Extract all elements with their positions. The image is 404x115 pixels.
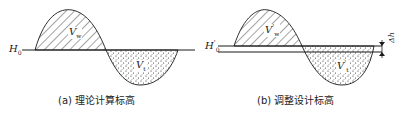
caption-b: (b) 调整设计标高	[257, 92, 334, 107]
datum-label-h0-prime: H'0	[205, 40, 220, 53]
panel-adjusted-elevation: H'0 V'w V't Δh (b) 调整设计标高	[202, 0, 404, 115]
delta-h-label: Δh	[388, 32, 396, 43]
datum-label-h0: H0	[9, 44, 22, 56]
arrow-down-icon	[379, 42, 385, 46]
fill-volume-label: Vw	[68, 27, 82, 39]
fill-volume-label: V'w	[264, 24, 280, 37]
arrow-up-icon	[379, 52, 385, 56]
caption-a: (a) 理论计算标高	[58, 92, 135, 107]
cut-volume-label: Vt	[135, 60, 147, 72]
cut-volume-label: V't	[336, 60, 350, 73]
panel-theoretical-elevation: H0 Vw Vt (a) 理论计算标高	[0, 0, 202, 115]
